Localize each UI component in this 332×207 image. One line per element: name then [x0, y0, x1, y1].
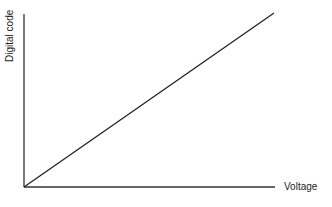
chart-canvas [0, 0, 332, 207]
transfer-line [24, 13, 274, 187]
x-axis-label: Voltage [284, 181, 317, 192]
y-axis-label: Digital code [4, 10, 15, 62]
